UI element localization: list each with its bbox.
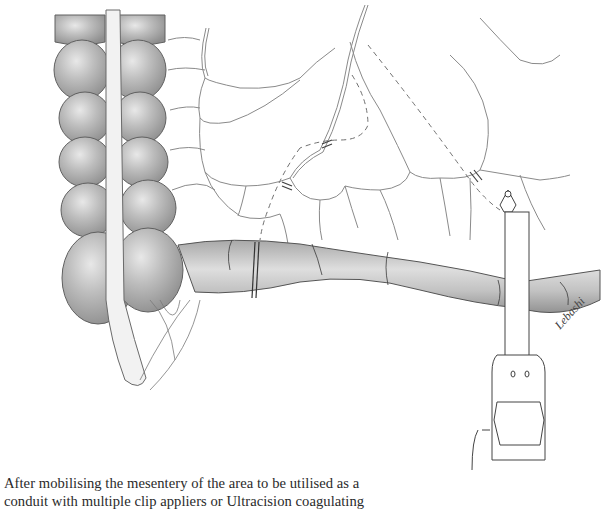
bowel-conduit xyxy=(178,240,600,312)
caption-line-2: conduit with multiple clip appliers or U… xyxy=(4,492,444,510)
figure-caption: After mobilising the mesentery of the ar… xyxy=(4,474,444,510)
appendix-mesentery xyxy=(140,300,200,390)
clip-applier-instrument xyxy=(472,190,545,470)
clip-marks xyxy=(282,140,482,190)
caption-line-1: After mobilising the mesentery of the ar… xyxy=(4,474,444,492)
surgical-illustration: Lebashi xyxy=(0,0,606,470)
resection-lines xyxy=(260,45,500,240)
